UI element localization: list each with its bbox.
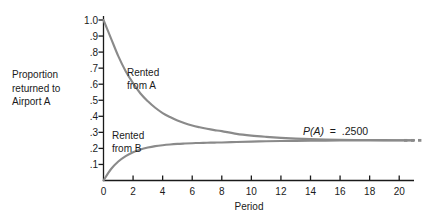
series-label-rented-from-b: Rented from B <box>112 129 144 155</box>
series-label-rented-from-a: Rented from A <box>127 66 159 92</box>
x-axis-tick-label: 0 <box>101 186 107 197</box>
y-axis-tick-label: .7 <box>64 63 98 74</box>
x-axis-tick-label: 10 <box>246 186 257 197</box>
x-axis-tick-label: 8 <box>219 186 225 197</box>
x-axis-tick-label: 20 <box>394 186 405 197</box>
y-axis-tick-label: .5 <box>64 95 98 106</box>
y-axis-tick-label: .3 <box>64 127 98 138</box>
y-axis-tick-label: .9 <box>64 31 98 42</box>
x-axis-tick-label: 16 <box>335 186 346 197</box>
x-axis-tick-label: 6 <box>189 186 195 197</box>
continuation-dot <box>411 139 414 142</box>
series-label-rented-from-b-line-2: from B <box>112 142 144 155</box>
asymptote-annotation: P(A) = .2500 <box>303 125 368 137</box>
chart-figure: Proportion returned to Airport A .1.2.3.… <box>0 0 428 221</box>
y-axis-tick-label: .4 <box>64 111 98 122</box>
y-axis-ticks <box>99 20 104 164</box>
y-axis-tick-label: .8 <box>64 47 98 58</box>
continuation-dot <box>418 139 421 142</box>
y-axis-tick-label: .6 <box>64 79 98 90</box>
series-label-rented-from-a-line-2: from A <box>127 79 159 92</box>
x-axis-tick-label: 14 <box>305 186 316 197</box>
y-axis-tick-label: 1.0 <box>64 15 98 26</box>
asymptote-annotation-symbol: P(A) <box>303 125 324 137</box>
series-label-rented-from-a-line-1: Rented <box>127 66 159 79</box>
continuation-dot <box>404 139 407 142</box>
x-axis-title: Period <box>235 201 264 212</box>
y-axis-tick-label: .2 <box>64 143 98 154</box>
x-axis-ticks <box>133 176 399 181</box>
x-axis-tick-label: 12 <box>275 186 286 197</box>
asymptote-continuation-dots <box>404 139 421 142</box>
data-series <box>104 20 415 181</box>
series-label-rented-from-b-line-1: Rented <box>112 129 144 142</box>
x-axis-tick-label: 18 <box>364 186 375 197</box>
x-axis-tick-label: 4 <box>160 186 166 197</box>
axes <box>104 16 415 181</box>
y-axis-tick-label: .1 <box>64 159 98 170</box>
x-axis-tick-label: 2 <box>130 186 136 197</box>
series-curve-rented-from-b <box>104 140 415 180</box>
asymptote-annotation-value: .2500 <box>342 125 368 137</box>
